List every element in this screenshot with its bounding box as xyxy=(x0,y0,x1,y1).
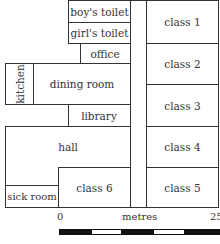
scale-segment xyxy=(121,229,154,235)
room-label: class 2 xyxy=(164,58,200,70)
room-class5: class 5 xyxy=(146,167,219,208)
room-library: library xyxy=(68,104,131,127)
scale-segment xyxy=(59,229,92,235)
room-label: kitchen xyxy=(14,64,26,104)
room-class4: class 4 xyxy=(146,126,219,168)
room-label: class 6 xyxy=(76,182,112,194)
room-label: class 3 xyxy=(164,100,200,112)
room-office: office xyxy=(80,43,131,65)
room-dining: dining room xyxy=(33,63,131,105)
room-label: class 1 xyxy=(164,16,200,28)
scale-segment xyxy=(184,229,220,235)
scale-label: metres xyxy=(122,211,157,222)
room-label: sick room xyxy=(7,191,56,202)
room-label: hall xyxy=(58,141,78,153)
scale-segment xyxy=(91,229,122,235)
room-class1: class 1 xyxy=(146,0,219,44)
room-girls-toilet: girl's toilet xyxy=(68,22,131,44)
scale-end: 25 xyxy=(210,211,220,222)
room-class3: class 3 xyxy=(146,84,219,127)
room-label: class 5 xyxy=(164,182,200,194)
room-class2: class 2 xyxy=(146,43,219,85)
room-label: girl's toilet xyxy=(71,27,129,39)
room-boys-toilet: boy's toilet xyxy=(68,0,131,23)
room-label: dining room xyxy=(50,78,115,90)
room-label: office xyxy=(90,48,119,60)
room-label: library xyxy=(81,110,117,122)
room-label: class 4 xyxy=(164,141,200,153)
room-label: boy's toilet xyxy=(70,6,128,18)
wall xyxy=(80,43,81,63)
scale-segment xyxy=(153,229,185,235)
room-kitchen: kitchen xyxy=(5,63,34,105)
wall xyxy=(68,104,69,126)
room-class6: class 6 xyxy=(58,167,131,208)
room-sick: sick room xyxy=(5,185,59,208)
corridor xyxy=(130,0,147,208)
scale-start: 0 xyxy=(57,211,63,222)
